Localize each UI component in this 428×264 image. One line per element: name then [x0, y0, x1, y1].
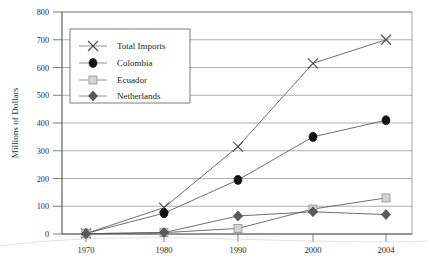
- x-tick-label: 2004: [377, 245, 395, 255]
- legend-label: Netherlands: [117, 91, 161, 101]
- x-tick-label: 1980: [155, 245, 172, 255]
- y-tick-label: 500: [37, 91, 49, 100]
- line-chart: 0100200300400500600700800 19701980199020…: [0, 0, 428, 264]
- data-point-colombia: [382, 116, 390, 125]
- data-point-total-imports: [308, 58, 318, 68]
- data-point-colombia: [160, 209, 168, 218]
- legend-label: Total Imports: [117, 41, 166, 51]
- y-tick-label: 700: [37, 36, 49, 45]
- data-point-ecuador: [234, 224, 242, 232]
- legend-marker-open-square: [89, 76, 97, 84]
- x-tick-label: 1970: [77, 245, 94, 255]
- data-point-netherlands: [233, 211, 242, 221]
- y-tick-label: 800: [37, 8, 49, 17]
- legend-label: Colombia: [117, 58, 153, 68]
- y-tick-label: 100: [37, 202, 49, 211]
- data-point-colombia: [309, 132, 317, 141]
- chart-svg: 0100200300400500600700800 19701980199020…: [0, 0, 428, 264]
- x-tick-label: 1990: [229, 245, 246, 255]
- y-tick-label: 300: [37, 147, 49, 156]
- data-point-total-imports: [233, 142, 243, 152]
- legend-label: Ecuador: [117, 75, 147, 85]
- data-point-colombia: [234, 175, 242, 184]
- data-point-ecuador: [382, 194, 390, 202]
- scan-smudge: [0, 238, 428, 246]
- x-tick-label: 2000: [304, 245, 321, 255]
- y-tick-label: 600: [37, 64, 49, 73]
- data-point-netherlands: [381, 210, 390, 220]
- y-tick-label: 0: [45, 230, 49, 239]
- legend-marker-filled-circle: [89, 58, 97, 67]
- x-axis-ticks: 19701980199020002004: [77, 234, 395, 255]
- y-axis-ticks: 0100200300400500600700800: [37, 8, 62, 239]
- chart-legend: Total ImportsColombiaEcuadorNetherlands: [70, 29, 190, 103]
- y-tick-label: 200: [37, 175, 49, 184]
- y-tick-label: 400: [37, 119, 49, 128]
- y-axis-title: Millions of Dollars: [10, 87, 20, 158]
